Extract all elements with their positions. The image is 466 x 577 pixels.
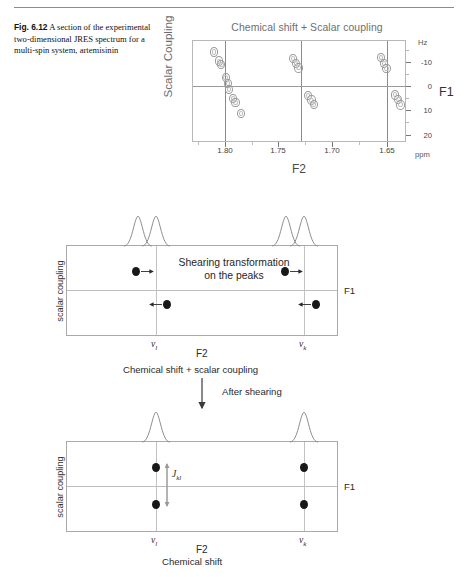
panel-bottom-tick-label-nu-k: νk: [299, 534, 306, 548]
schematic-diagram: Shearing transformation on the peaks sca…: [0, 0, 466, 577]
shearing-annotation-line2: on the peaks: [160, 269, 308, 282]
figure-page: Fig. 6.12 A section of the experimental …: [0, 0, 466, 577]
sheared-dot-lower-right: [300, 500, 308, 509]
panel-bottom-x-axis-label: F2: [196, 544, 208, 555]
panel-bottom-zero-line: [67, 486, 337, 487]
shearing-annotation: Shearing transformation on the peaks: [160, 256, 308, 282]
panel-top-tick-label-nu-l: νl: [151, 338, 157, 352]
shearing-annotation-line1: Shearing transformation: [160, 256, 308, 269]
panel-top-sub-caption: Chemical shift + scalar coupling: [123, 364, 258, 375]
coupling-constant-label: Jkl: [172, 468, 181, 482]
panel-top-x-axis-label: F2: [196, 348, 208, 359]
sheared-dot-lower-left: [152, 500, 160, 509]
panel-bottom-y-axis-label: scalar coupling: [55, 443, 65, 531]
after-shearing-label: After shearing: [222, 386, 282, 397]
panel-bottom-peak-traces: [66, 409, 338, 442]
panel-bottom-f1-label: F1: [344, 481, 355, 492]
panel-bottom-tick-label-nu-l: νl: [151, 534, 157, 548]
panel-top-y-axis-label: scalar coupling: [55, 247, 65, 335]
panel-bottom-sub-caption: Chemical shift: [162, 556, 222, 567]
panel-top-f1-label: F1: [344, 285, 355, 296]
panel-top-tick-label-nu-k: νk: [299, 338, 306, 352]
sheared-dot-upper-right: [300, 463, 308, 472]
sheared-dot-upper-left: [152, 463, 160, 472]
